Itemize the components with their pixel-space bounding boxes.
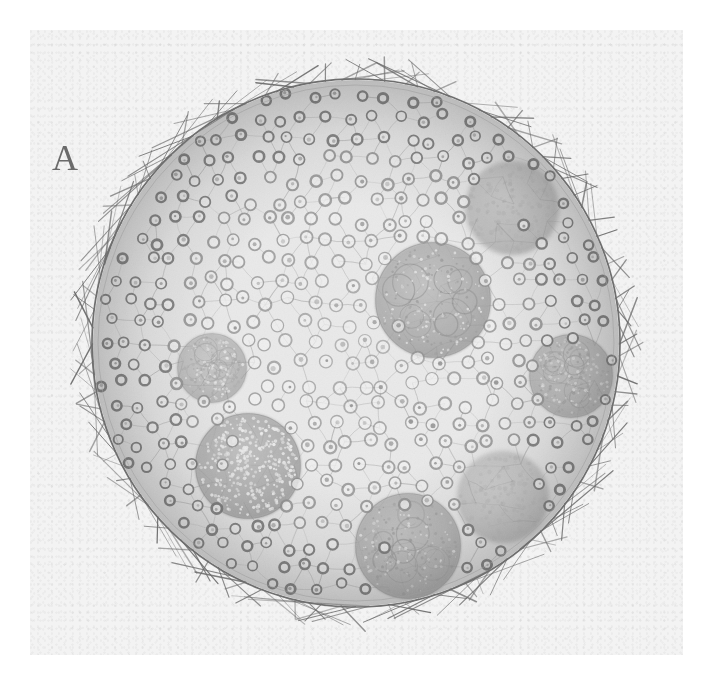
flagellum xyxy=(619,356,636,403)
flagellum xyxy=(434,82,456,92)
flagellum xyxy=(612,405,615,448)
flagellum xyxy=(103,454,117,461)
flagellum xyxy=(615,392,637,394)
flagellum xyxy=(542,157,570,159)
flagellum xyxy=(157,517,158,543)
flagellum xyxy=(589,217,614,220)
flagellum xyxy=(341,606,365,631)
flagellum xyxy=(491,117,533,118)
flagellum xyxy=(144,526,168,528)
volvox-colony-illustration xyxy=(0,0,719,686)
flagellum xyxy=(582,182,587,207)
flagellum xyxy=(312,606,369,621)
paper-grain-overlay xyxy=(93,80,619,606)
flagellum xyxy=(103,205,131,206)
flagellum xyxy=(477,577,484,593)
flagellum xyxy=(508,111,522,128)
flagellum xyxy=(612,260,626,280)
flagellum xyxy=(533,139,558,148)
figure-root: A xyxy=(0,0,719,686)
flagellum xyxy=(597,230,617,237)
